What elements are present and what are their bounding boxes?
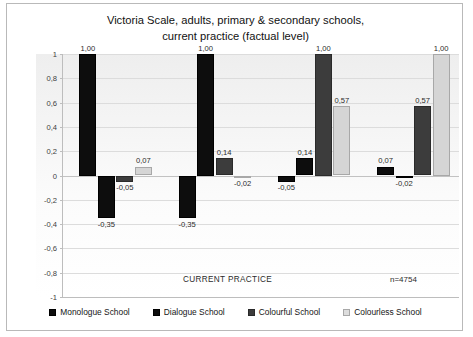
bar-monologue-school-monologue-school <box>79 54 96 176</box>
y-axis-tick-8: -0,6 <box>44 244 57 253</box>
legend-label: Monologue School <box>60 307 129 317</box>
plot-area: 10,80,60,40,20-0,2-0,4-0,6-0,8-1 1,00-0,… <box>36 54 459 297</box>
bar-label-1-0: -0,35 <box>167 220 207 229</box>
bar-label-3-3: 1,00 <box>421 44 461 53</box>
bar-colourful-school-colourful-school <box>315 54 332 176</box>
bar-colourful-school-monologue-school <box>278 176 295 182</box>
legend-label: Colourful School <box>259 307 320 317</box>
y-axis-tick-4: 0,2 <box>46 147 57 156</box>
y-axis-tick-3: 0,4 <box>46 122 57 131</box>
legend-label: Colourless School <box>354 307 422 317</box>
bar-colourless-school-monologue-school <box>377 167 394 176</box>
bar-colourful-school-dialogue-school <box>296 158 313 175</box>
bar-label-0-1: -0,35 <box>86 220 126 229</box>
gridline--1 <box>63 297 459 298</box>
bar-series-group: 1,00-0,35-0,050,07-0,351,000,14-0,02-0,0… <box>63 54 459 297</box>
legend-item-dialogue-school[interactable]: Dialogue School <box>153 307 225 317</box>
bar-dialogue-school-monologue-school <box>179 176 196 219</box>
y-axis-tick-2: 0,6 <box>46 98 57 107</box>
chart-card: Victoria Scale, adults, primary & second… <box>6 3 463 331</box>
y-axis-tick-1: 0,8 <box>46 74 57 83</box>
legend-swatch-icon <box>49 309 56 316</box>
y-axis-tick-10: -1 <box>50 293 57 302</box>
bar-dialogue-school-colourful-school <box>216 158 233 175</box>
y-axis-tick-5: 0 <box>53 171 57 180</box>
y-axis-tick-0: 1 <box>53 50 57 59</box>
chart-title: Victoria Scale, adults, primary & second… <box>7 13 464 44</box>
bar-label-0-2: -0,05 <box>105 183 145 192</box>
bar-label-1-1: 1,00 <box>186 44 226 53</box>
legend-swatch-icon <box>248 309 255 316</box>
legend-swatch-icon <box>153 309 160 316</box>
legend-item-monologue-school[interactable]: Monologue School <box>49 307 129 317</box>
bar-monologue-school-colourful-school <box>116 176 133 182</box>
chart-legend: Monologue SchoolDialogue SchoolColourful… <box>7 307 464 317</box>
y-axis-tick-7: -0,4 <box>44 220 57 229</box>
legend-swatch-icon <box>343 309 350 316</box>
annotation-current-practice: CURRENT PRACTICE <box>183 275 272 284</box>
y-axis-tick-6: -0,2 <box>44 195 57 204</box>
bar-dialogue-school-dialogue-school <box>197 54 214 176</box>
bar-label-2-0: -0,05 <box>266 183 306 192</box>
bar-dialogue-school-colourless-school <box>234 176 251 178</box>
plot-canvas: 1,00-0,35-0,050,07-0,351,000,14-0,02-0,0… <box>62 54 459 297</box>
y-axis-tick-labels: 10,80,60,40,20-0,2-0,4-0,6-0,8-1 <box>36 54 60 297</box>
bar-colourless-school-dialogue-school <box>396 176 413 178</box>
bar-colourless-school-colourful-school <box>414 106 431 175</box>
bar-label-1-2: 0,14 <box>204 148 244 157</box>
bar-label-2-3: 0,57 <box>322 96 362 105</box>
chart-title-line-1: Victoria Scale, adults, primary & second… <box>7 13 464 29</box>
bar-label-3-1: -0,02 <box>384 179 424 188</box>
bar-monologue-school-colourless-school <box>135 167 152 176</box>
bar-colourless-school-colourless-school <box>433 54 450 176</box>
annotation-sample-size: n=4754 <box>390 275 417 284</box>
bar-label-3-0: 0,07 <box>366 156 406 165</box>
bar-monologue-school-dialogue-school <box>98 176 115 219</box>
legend-item-colourless-school[interactable]: Colourless School <box>343 307 422 317</box>
bar-label-0-3: 0,07 <box>123 156 163 165</box>
y-tickmark-10 <box>60 297 63 298</box>
legend-item-colourful-school[interactable]: Colourful School <box>248 307 320 317</box>
bar-label-1-3: -0,02 <box>223 179 263 188</box>
chart-title-line-2: current practice (factual level) <box>7 29 464 45</box>
y-axis-tick-9: -0,8 <box>44 268 57 277</box>
bar-label-2-2: 1,00 <box>303 44 343 53</box>
bar-colourful-school-colourless-school <box>333 106 350 175</box>
legend-label: Dialogue School <box>164 307 225 317</box>
bar-label-0-0: 1,00 <box>68 44 108 53</box>
